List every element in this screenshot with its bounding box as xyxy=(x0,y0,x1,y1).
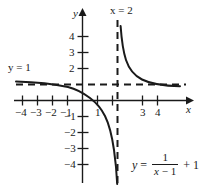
equation-denominator: x − 1 xyxy=(152,165,178,177)
equation-numerator: 1 xyxy=(159,152,171,164)
x-axis xyxy=(14,97,194,105)
x-tick-label-neg2: −2 xyxy=(45,107,57,118)
y-tick-label-2: 2 xyxy=(69,63,75,74)
equation-label: y = 1 x − 1 + 1 xyxy=(132,152,199,177)
horizontal-asymptote-label: y = 1 xyxy=(8,62,31,73)
y-tick-label-3: 3 xyxy=(69,47,75,58)
equation-lhs: y xyxy=(132,159,137,171)
y-tick-label-4: 4 xyxy=(69,31,75,42)
x-tick-label-neg3: −3 xyxy=(30,107,42,118)
equation-denominator-const: 1 xyxy=(171,165,177,177)
equation-denominator-var: x xyxy=(154,165,159,177)
x-tick-label-neg4: −4 xyxy=(15,107,27,118)
figure-container: −4 −3 −2 −1 1 3 4 4 3 2 −1 −2 −3 −4 y x … xyxy=(0,0,222,187)
curve-right-branch xyxy=(121,26,180,86)
equation-denominator-op: − xyxy=(162,165,168,177)
equation-fraction: 1 x − 1 xyxy=(152,152,178,177)
x-tick-label-1: 1 xyxy=(95,107,101,118)
y-tick-label-neg2: −2 xyxy=(64,127,76,138)
y-axis-name: y xyxy=(73,8,78,19)
vertical-asymptote-label: x = 2 xyxy=(110,5,133,16)
y-tick-label-neg3: −3 xyxy=(64,143,76,154)
x-tick-label-3: 3 xyxy=(140,107,146,118)
x-tick-label-4: 4 xyxy=(155,107,161,118)
equation-equals: = xyxy=(140,159,147,171)
equation-constant: 1 xyxy=(193,159,199,171)
y-tick-label-neg4: −4 xyxy=(64,159,76,170)
y-tick-label-neg1: −1 xyxy=(64,111,76,122)
x-axis-name: x xyxy=(186,104,191,115)
equation-plus: + xyxy=(183,159,190,171)
